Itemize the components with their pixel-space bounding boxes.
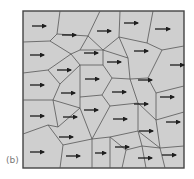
voronoi-diagram xyxy=(0,0,194,179)
panel-label: (b) xyxy=(6,155,19,165)
